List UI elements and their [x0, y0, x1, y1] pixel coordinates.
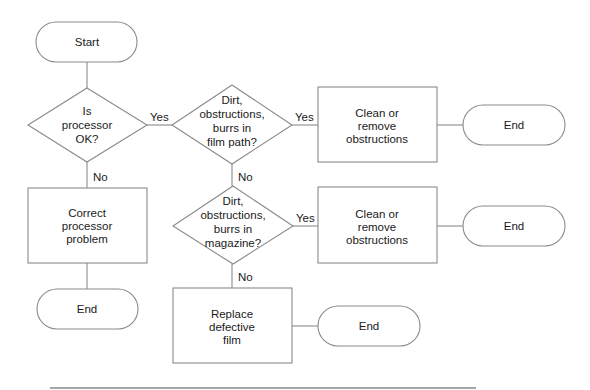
node-replace: Replace defective film: [173, 288, 292, 363]
edge-label-processor-no: No: [93, 171, 108, 183]
edge-label-magazine-yes: Yes: [296, 212, 315, 224]
edge-label-processor-yes: Yes: [150, 111, 169, 123]
node-label-line: obstructions: [346, 133, 408, 145]
node-correct: Correct processor problem: [28, 188, 147, 263]
node-clean1: Clean or remove obstructions: [318, 87, 437, 162]
node-label: End: [504, 119, 524, 131]
node-label-line: obstructions,: [199, 108, 264, 120]
node-end2: End: [463, 206, 565, 246]
node-label-line: processor: [62, 119, 113, 131]
node-clean2: Clean or remove obstructions: [318, 187, 437, 263]
node-label-line: remove: [358, 120, 396, 132]
node-label-line: OK?: [75, 133, 98, 145]
node-label-line: remove: [358, 221, 396, 233]
node-label-line: burrs in: [213, 122, 251, 134]
node-end-left: End: [37, 289, 138, 329]
node-label-line: magazine?: [205, 237, 261, 249]
node-q-magazine: Dirt, obstructions, burrs in magazine?: [173, 186, 293, 264]
node-label: End: [504, 220, 524, 232]
node-label: Start: [75, 36, 100, 48]
node-label-line: Replace: [211, 308, 253, 320]
node-label-line: burrs in: [214, 223, 252, 235]
node-start: Start: [36, 22, 137, 62]
node-q-processor: Is processor OK?: [28, 88, 147, 162]
node-end3: End: [318, 306, 420, 346]
node-label-line: processor: [62, 220, 113, 232]
edge-label-filmpath-yes: Yes: [295, 111, 314, 123]
node-label-line: obstructions,: [200, 209, 265, 221]
node-label-line: defective: [209, 321, 255, 333]
node-label-line: Clean or: [355, 208, 399, 220]
edge-label-magazine-no: No: [238, 271, 253, 283]
node-end1: End: [463, 105, 565, 145]
node-label-line: Clean or: [355, 107, 399, 119]
edge-label-filmpath-no: No: [238, 171, 253, 183]
node-label-line: obstructions: [346, 234, 408, 246]
node-label-line: problem: [66, 233, 108, 245]
flowchart-canvas: Yes No Yes No Yes No Start Is processor …: [0, 0, 590, 390]
node-label-line: film path?: [207, 136, 257, 148]
node-label-line: Correct: [68, 207, 107, 219]
node-q-filmpath: Dirt, obstructions, burrs in film path?: [172, 85, 292, 164]
node-label: End: [359, 320, 379, 332]
node-label-line: Dirt,: [222, 195, 243, 207]
node-label-line: film: [223, 334, 241, 346]
node-label-line: Dirt,: [221, 94, 242, 106]
node-label-line: Is: [83, 105, 92, 117]
node-label: End: [77, 303, 97, 315]
